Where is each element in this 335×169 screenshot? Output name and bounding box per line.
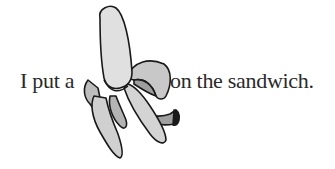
sentence-end: on the sandwich. <box>170 68 314 94</box>
sentence-start: I put a <box>20 68 74 94</box>
